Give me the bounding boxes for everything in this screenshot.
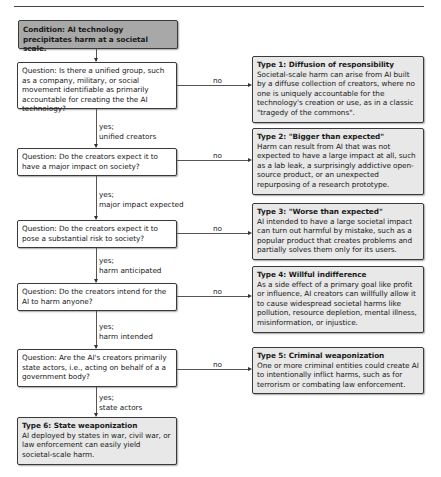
no-label-2: no (213, 151, 222, 161)
type-box-2: Type 2: "Bigger than expected" Harm can … (252, 128, 424, 195)
condition-text: Condition: AI technology precipitates ha… (23, 25, 148, 53)
type-box-5: Type 5: Criminal weaponization One or mo… (252, 347, 424, 394)
yes-connector-2 (96, 176, 97, 219)
type-body: AI deployed by states in war, civil war,… (22, 431, 171, 459)
type-body: Harm can result from AI that was not exp… (257, 142, 416, 189)
type-title: Type 5: Criminal weaponization (257, 351, 419, 361)
yes-label-1: yes; unified creators (99, 122, 156, 141)
no-label-4: no (213, 287, 222, 297)
yes-label-3: yes; harm anticipated (99, 256, 162, 275)
type-box-3: Type 3: "Worse than expected" AI intende… (252, 203, 424, 260)
yes-connector-5 (96, 387, 97, 416)
type-body: As a side effect of a primary goal like … (257, 280, 417, 327)
question-text: Question: Do the creators expect it to h… (22, 152, 158, 171)
question-text: Question: Is there a unified group, such… (22, 66, 164, 113)
yes-label-5: yes; state actors (99, 393, 142, 412)
question-text: Question: Do the creators intend for the… (22, 287, 166, 306)
yes-label-2: yes; major impact expected (99, 190, 184, 209)
question-box-1: Question: Is there a unified group, such… (17, 62, 177, 109)
question-box-5: Question: Are the AI's creators primaril… (17, 349, 177, 387)
question-text: Question: Are the AI's creators primaril… (22, 353, 166, 381)
question-text: Question: Do the creators expect it to p… (22, 224, 158, 243)
type-body: Societal-scale harm can arise from AI bu… (257, 70, 415, 117)
yes-connector-1 (96, 109, 97, 147)
type-box-1: Type 1: Diffusion of responsibility Soci… (252, 56, 424, 123)
type-title: Type 4: Willful indifference (257, 270, 419, 280)
yes-connector-4 (96, 311, 97, 348)
condition-box: Condition: AI technology precipitates ha… (18, 20, 178, 49)
type-box-6: Type 6: State weaponization AI deployed … (17, 417, 177, 465)
question-box-3: Question: Do the creators expect it to p… (17, 220, 177, 248)
type-title: Type 2: "Bigger than expected" (257, 132, 419, 142)
type-body: One or more criminal entities could crea… (257, 361, 419, 389)
no-label-5: no (213, 360, 222, 370)
type-title: Type 6: State weaponization (22, 421, 172, 431)
no-label-1: no (213, 76, 222, 86)
type-body: AI intended to have a large societal imp… (257, 217, 412, 255)
type-title: Type 3: "Worse than expected" (257, 207, 419, 217)
yes-label-4: yes; harm intended (99, 322, 153, 341)
header-rule (14, 6, 424, 7)
question-box-4: Question: Do the creators intend for the… (17, 283, 177, 311)
no-label-3: no (213, 224, 222, 234)
type-box-4: Type 4: Willful indifference As a side e… (252, 266, 424, 333)
question-box-2: Question: Do the creators expect it to h… (17, 148, 177, 176)
yes-connector-3 (96, 248, 97, 282)
type-title: Type 1: Diffusion of responsibility (257, 60, 419, 70)
